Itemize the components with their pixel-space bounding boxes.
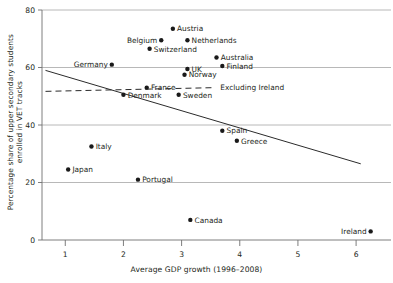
data-point-group: Germany [74, 60, 114, 69]
data-point-label-canada: Canada [195, 216, 223, 225]
data-point-switzerland[interactable] [147, 47, 151, 51]
data-point-group: Finland [220, 62, 253, 71]
data-point-label-japan: Japan [71, 165, 93, 174]
annotations: Excluding Ireland [220, 83, 284, 92]
scatter-chart: Percentage share of upper secondary stud… [0, 0, 393, 283]
data-point-group: Sweden [176, 91, 212, 100]
data-point-group: Portugal [136, 175, 173, 184]
y-tick-labels: 020406080 [25, 6, 42, 245]
data-point-netherlands[interactable] [185, 38, 189, 42]
data-point-spain[interactable] [220, 129, 224, 133]
data-point-france[interactable] [145, 85, 149, 89]
data-point-group: Denmark [121, 91, 162, 100]
trendline-solid [45, 70, 360, 163]
data-point-label-greece: Greece [241, 137, 268, 146]
data-point-japan[interactable] [66, 167, 70, 171]
y-tick-label-40: 40 [25, 121, 35, 130]
data-point-greece[interactable] [235, 139, 239, 143]
data-point-label-switzerland: Switzerland [154, 45, 197, 54]
data-point-ireland[interactable] [368, 229, 372, 233]
x-tick-label-2: 2 [121, 250, 126, 259]
trendline-annotation: Excluding Ireland [220, 83, 284, 92]
data-point-sweden[interactable] [176, 93, 180, 97]
trend-lines [45, 70, 360, 163]
data-point-group: Canada [188, 216, 223, 225]
x-tick-label-1: 1 [63, 250, 68, 259]
data-point-group: Switzerland [147, 45, 197, 54]
data-point-germany[interactable] [110, 62, 114, 66]
data-point-label-netherlands: Netherlands [192, 36, 237, 45]
x-tick-label-6: 6 [354, 250, 359, 259]
data-point-group: Ireland [341, 227, 373, 236]
data-points: AustriaBelgiumNetherlandsSwitzerlandGerm… [66, 24, 373, 236]
plot-area: 020406080 123456 AustriaBelgiumNetherlan… [0, 0, 393, 283]
data-point-label-denmark: Denmark [128, 91, 163, 100]
data-point-group: Austria [171, 24, 204, 33]
data-point-label-ireland: Ireland [341, 227, 367, 236]
data-point-label-spain: Spain [227, 126, 248, 135]
data-point-finland[interactable] [220, 64, 224, 68]
data-point-label-germany: Germany [74, 60, 109, 69]
x-tick-labels: 123456 [63, 240, 359, 259]
y-tick-label-60: 60 [25, 63, 35, 72]
data-point-group: Italy [89, 142, 112, 151]
data-point-australia[interactable] [214, 55, 218, 59]
y-tick-label-20: 20 [25, 178, 35, 187]
data-point-label-finland: Finland [227, 62, 254, 71]
data-point-denmark[interactable] [121, 93, 125, 97]
y-tick-label-80: 80 [25, 6, 35, 15]
data-point-belgium[interactable] [159, 38, 163, 42]
data-point-group: Greece [235, 137, 268, 146]
data-point-group: Japan [66, 165, 93, 174]
data-point-label-portugal: Portugal [142, 175, 173, 184]
data-point-austria[interactable] [171, 26, 175, 30]
data-point-portugal[interactable] [136, 177, 140, 181]
x-tick-label-4: 4 [237, 250, 242, 259]
data-point-norway[interactable] [182, 72, 186, 76]
data-point-italy[interactable] [89, 144, 93, 148]
data-point-label-sweden: Sweden [183, 91, 213, 100]
data-point-label-norway: Norway [189, 70, 218, 79]
data-point-label-austria: Austria [177, 24, 203, 33]
data-point-canada[interactable] [188, 218, 192, 222]
data-point-label-belgium: Belgium [127, 36, 157, 45]
data-point-group: Norway [182, 70, 217, 79]
x-tick-label-5: 5 [296, 250, 301, 259]
data-point-label-italy: Italy [96, 142, 113, 151]
x-tick-label-3: 3 [179, 250, 184, 259]
data-point-group: Spain [220, 126, 247, 135]
y-tick-label-0: 0 [30, 236, 35, 245]
